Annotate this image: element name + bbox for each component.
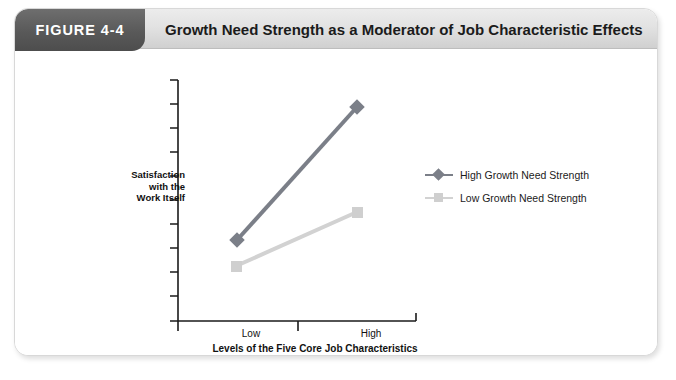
y-axis-label: Satisfaction with the Work Itself [89,169,185,204]
figure-frame: FIGURE 4-4 Growth Need Strength as a Mod… [14,8,658,356]
y-axis-label-line-1: Satisfaction [89,169,185,181]
legend-label-high-growth: High Growth Need Strength [460,169,589,181]
legend-diamond-marker-icon [425,168,453,182]
x-axis-tick-label-high: High [341,328,401,339]
figure-root: FIGURE 4-4 Growth Need Strength as a Mod… [0,0,676,380]
legend-label-low-growth: Low Growth Need Strength [460,192,587,204]
x-axis-title: Levels of the Five Core Job Characterist… [135,343,495,354]
figure-plot-body: Satisfaction with the Work Itself Low Hi… [15,49,657,356]
chart-legend: High Growth Need Strength Low Growth Nee… [425,165,589,211]
x-axis-tick-label-low: Low [221,328,281,339]
legend-square-marker-icon [425,191,453,205]
figure-title: Growth Need Strength as a Moderator of J… [165,9,643,49]
y-axis-label-line-2: with the [89,181,185,193]
figure-number-label: FIGURE 4-4 [36,22,125,38]
figure-header-band: FIGURE 4-4 Growth Need Strength as a Mod… [15,9,657,49]
legend-item-high-growth: High Growth Need Strength [425,165,589,184]
y-axis-label-line-3: Work Itself [89,192,185,204]
data-point-low-growth-low-x [231,261,242,272]
figure-number-tab: FIGURE 4-4 [15,9,145,51]
data-point-low-growth-high-x [352,207,363,218]
legend-item-low-growth: Low Growth Need Strength [425,188,589,207]
